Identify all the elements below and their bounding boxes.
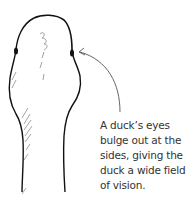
left-eye <box>14 48 18 55</box>
right-eye <box>70 50 74 57</box>
callout-arrow <box>80 52 120 112</box>
annotation-caption: A duck’s eyes bulge out at the sides, gi… <box>100 118 192 193</box>
duck-head-outline-left <box>9 18 34 192</box>
duck-head-outline-right <box>64 50 81 192</box>
caption-line: duck a wide field <box>100 163 192 178</box>
crown-feather-sketch <box>40 33 47 80</box>
duck-head-outline-top <box>34 15 72 50</box>
caption-line: bulge out at the <box>100 133 192 148</box>
arrowhead-icon <box>79 48 85 55</box>
caption-line: sides, giving the <box>100 148 192 163</box>
caption-line: A duck’s eyes <box>100 118 192 133</box>
caption-line: of vision. <box>100 178 192 193</box>
